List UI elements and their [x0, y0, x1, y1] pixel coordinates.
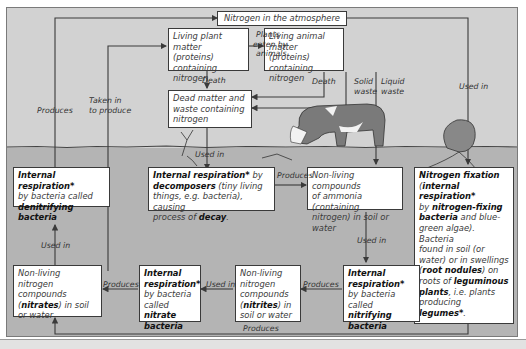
label-produces-nitrites: Produces	[303, 280, 339, 290]
node-nitrifying-bacteria: Internal respiration* by bacteria called…	[343, 265, 420, 322]
text-line: Non-living nitrogen	[18, 268, 97, 289]
text-span: roots of	[419, 276, 454, 286]
text-bold: leguminous	[454, 276, 509, 286]
text-bold: nitrate	[144, 310, 176, 320]
text-span: .	[463, 308, 466, 318]
label-produces-bottom: Produces	[243, 324, 279, 334]
text-line: by bacteria called	[348, 289, 415, 310]
label-used-in-decomposers: Used in	[195, 150, 224, 160]
text-line: found in soil (or	[419, 244, 509, 255]
text-line: nitrogen) in soil or water	[312, 212, 398, 233]
text-line: waste containing	[173, 104, 247, 115]
text-bold: nitrites	[243, 300, 278, 310]
atmosphere-text: Nitrogen in the atmosphere	[224, 13, 340, 23]
node-nitrogen-fixation: Nitrogen fixation (internal respiration*…	[414, 167, 514, 324]
label-used-in-fixation: Used in	[459, 82, 488, 92]
text-bold: bacteria	[419, 212, 458, 222]
text-span: by	[419, 202, 432, 212]
text-span: ) on	[482, 265, 498, 275]
node-denitrifying-bacteria: Internal respiration* by bacteria called…	[13, 167, 110, 207]
text-line: Living plant matter	[173, 31, 244, 52]
text-line: by bacteria	[144, 289, 196, 300]
text-line: Taken in	[89, 96, 131, 106]
text-bold: internal respiration*	[419, 181, 475, 202]
text-bold: respiration*	[348, 279, 404, 289]
text-line: to produce	[89, 106, 131, 116]
label-produces-ammonia: Produces	[277, 171, 313, 181]
text-bold: Internal respiration*	[18, 170, 74, 191]
label-taken-in: Taken in to produce	[89, 96, 131, 115]
text-bold: nitrogen-fixing	[432, 202, 503, 212]
label-death-plant: Death	[202, 76, 226, 86]
text-span: ) in	[278, 300, 292, 310]
text-line: or water	[18, 310, 97, 321]
label-plants-eaten: Plants eaten by animals	[256, 30, 290, 59]
text-line: nitrogen	[173, 114, 247, 125]
text-bold: bacteria	[144, 321, 183, 331]
text-bold: nitrifying	[348, 310, 392, 320]
text-line: of ammonia (containing	[312, 191, 398, 212]
text-line: (proteins) containing	[173, 52, 244, 73]
label-used-in-nitrate-bacteria: Used in	[206, 280, 235, 290]
text-line: waste	[354, 87, 377, 97]
text-span: called	[144, 300, 169, 310]
label-used-in-denitrifying: Used in	[41, 241, 70, 251]
text-bold: Internal	[348, 268, 385, 278]
text-line: compounds	[240, 289, 296, 300]
text-line: waste	[381, 87, 405, 97]
text-line: eaten by	[253, 40, 287, 50]
text-line: Solid	[354, 77, 377, 87]
node-ammonia-compounds: Non-living compounds of ammonia (contain…	[307, 167, 403, 210]
text-bold: legumes*	[419, 308, 463, 318]
text-bold: root nodules	[422, 265, 482, 275]
text-span: , i.e. plants	[448, 287, 495, 297]
node-nitrites: Non-living nitrogen compounds (nitrites)…	[235, 265, 301, 322]
text-line: compounds	[18, 289, 97, 300]
text-span: process of	[153, 212, 199, 222]
cow-illustration	[290, 104, 385, 146]
text-line: by bacteria called	[18, 191, 105, 202]
text-line: Non-living compounds	[312, 170, 398, 191]
label-produces-nitrates: Produces	[103, 280, 139, 290]
node-nitrate-bacteria: Internal respiration* by bacteria called…	[139, 265, 201, 322]
text-bold: nitrates	[21, 300, 58, 310]
node-decomposers: Internal respiration* by decomposers (ti…	[148, 167, 275, 211]
label-produces-atmosphere: Produces	[37, 106, 73, 116]
label-liquid-waste: Liquid waste	[381, 77, 405, 96]
text-bold: denitrifying bacteria	[18, 202, 73, 223]
text-line: soil or water	[240, 310, 296, 321]
text-line: green algae). Bacteria	[419, 223, 509, 244]
text-line: Dead matter and	[173, 93, 247, 104]
text-bold: decay	[199, 212, 227, 222]
text-line: things, e.g. bacteria), causing	[153, 191, 270, 212]
text-bold: Internal	[144, 268, 181, 278]
node-dead-matter: Dead matter and waste containing nitroge…	[168, 90, 252, 128]
text-span: and blue-	[458, 212, 500, 222]
text-span: .	[226, 212, 229, 222]
text-line: nitrogen	[240, 279, 296, 290]
text-span: (tiny living	[216, 181, 263, 191]
label-solid-waste: Solid waste	[354, 77, 377, 96]
text-span: by	[250, 170, 263, 180]
text-bold: Internal respiration*	[153, 170, 250, 180]
text-line: Non-living	[240, 268, 296, 279]
bottom-border	[0, 339, 526, 349]
text-line: Liquid	[381, 77, 405, 87]
text-bold: decomposers	[153, 181, 216, 191]
text-bold: respiration*	[144, 279, 200, 289]
text-bold: Nitrogen fixation	[419, 170, 500, 180]
node-atmosphere: Nitrogen in the atmosphere	[217, 11, 347, 26]
node-nitrates: Non-living nitrogen compounds (nitrates)…	[13, 265, 102, 317]
label-used-in-nitrifying: Used in	[357, 236, 386, 246]
text-span: producing	[419, 297, 461, 307]
text-line: water) or in swellings	[419, 255, 509, 266]
text-span: ) in soil	[59, 300, 89, 310]
label-death-animal: Death	[312, 77, 336, 87]
text-bold: plants	[419, 287, 448, 297]
node-living-plant-matter: Living plant matter (proteins) containin…	[168, 28, 249, 71]
text-bold: bacteria	[348, 321, 387, 331]
nitrogen-cycle-diagram: Nitrogen in the atmosphere Living plant …	[6, 7, 518, 337]
text-line: animals	[256, 49, 290, 59]
text-line: Plants	[256, 30, 290, 40]
